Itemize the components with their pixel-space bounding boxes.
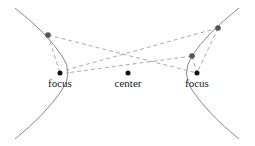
left-focus-label: focus (48, 77, 72, 89)
focal-line (197, 28, 218, 73)
right-focus-label: focus (185, 77, 209, 89)
right-branch (187, 8, 240, 139)
center-label: center (115, 77, 142, 89)
right-focus-point (195, 71, 200, 76)
curve-point (215, 25, 221, 31)
left-focus-point (58, 71, 63, 76)
focal-line (66, 28, 218, 70)
focal-line (66, 56, 192, 73)
hyperbola-diagram: focus center focus (0, 0, 255, 146)
curve-point (189, 53, 195, 59)
diagram-canvas: focus center focus (0, 0, 255, 146)
center-point (126, 71, 131, 76)
curve-point (45, 32, 51, 38)
